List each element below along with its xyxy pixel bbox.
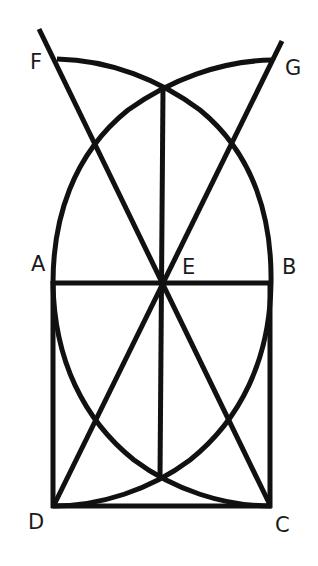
label-C: C	[275, 515, 290, 536]
label-B: B	[282, 257, 296, 278]
line-FC	[39, 29, 270, 505]
line-GD	[54, 41, 282, 505]
label-E: E	[182, 257, 195, 278]
label-G: G	[285, 58, 301, 79]
label-F: F	[30, 52, 42, 73]
label-D: D	[28, 512, 44, 533]
label-A: A	[31, 254, 45, 275]
geometric-diagram	[0, 0, 318, 566]
